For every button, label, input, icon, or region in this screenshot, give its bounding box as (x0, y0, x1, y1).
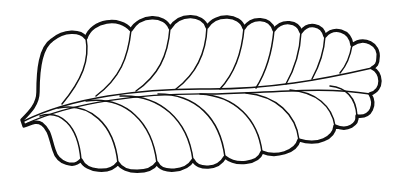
feather-drawing (0, 0, 402, 187)
